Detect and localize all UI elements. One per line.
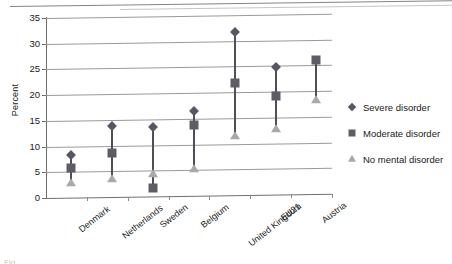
data-point-no-mental-disorder-netherlands: [107, 174, 117, 182]
legend-marker-diamond-icon: [346, 101, 358, 113]
x-tick-mark-6: [332, 194, 333, 198]
data-point-no-mental-disorder-sweden: [148, 169, 158, 177]
y-tick-label-30: 30: [18, 39, 40, 49]
data-point-severe-disorder-eu21: [271, 62, 281, 72]
range-stem-austria: [315, 60, 317, 100]
data-point-no-mental-disorder-eu21: [271, 124, 281, 132]
x-tick-label-denmark: Denmark: [77, 204, 112, 234]
legend-marker-square-icon: [346, 127, 358, 139]
y-tick-label-25: 25: [18, 64, 40, 74]
triangle-icon: [348, 155, 356, 162]
y-tick-mark-0: [42, 198, 46, 199]
legend-label: No mental disorder: [363, 154, 443, 165]
range-stem-sweden: [152, 127, 154, 187]
data-point-no-mental-disorder-denmark: [66, 178, 76, 186]
y-tick-label-15: 15: [18, 116, 40, 126]
data-point-severe-disorder-denmark: [66, 150, 76, 160]
y-tick-label-0: 0: [18, 193, 40, 203]
x-tick-label-austria: Austria: [320, 200, 348, 225]
data-points: [46, 18, 332, 198]
data-point-no-mental-disorder-austria: [311, 95, 321, 103]
legend: Severe disorderModerate disorderNo menta…: [346, 101, 452, 179]
legend-item-moderate-disorder[interactable]: Moderate disorder: [346, 127, 452, 139]
data-point-severe-disorder-sweden: [148, 123, 158, 133]
chart: Percent 05101520253035 DenmarkNetherland…: [0, 0, 452, 264]
data-point-severe-disorder-netherlands: [107, 121, 117, 131]
x-tick-label-eu21: EU21: [278, 201, 302, 223]
data-point-moderate-disorder-belgium: [189, 120, 198, 129]
y-tick-label-10: 10: [18, 142, 40, 152]
data-point-moderate-disorder-sweden: [149, 183, 158, 192]
legend-item-no-mental-disorder[interactable]: No mental disorder: [346, 153, 452, 165]
caption-fragment: Fig: [4, 258, 74, 264]
data-point-moderate-disorder-austria: [312, 55, 321, 64]
plot-area: [46, 18, 332, 198]
square-icon: [349, 130, 356, 137]
legend-marker-triangle-icon: [346, 153, 358, 165]
data-point-no-mental-disorder-belgium: [189, 164, 199, 172]
y-tick-label-5: 5: [18, 167, 40, 177]
data-point-moderate-disorder-eu21: [271, 92, 280, 101]
data-point-moderate-disorder-netherlands: [108, 148, 117, 157]
y-tick-label-35: 35: [18, 13, 40, 23]
x-tick-label-belgium: Belgium: [199, 202, 231, 230]
data-point-severe-disorder-belgium: [189, 106, 199, 116]
data-point-moderate-disorder-denmark: [67, 163, 76, 172]
data-point-moderate-disorder-united-kingdom: [230, 79, 239, 88]
data-point-no-mental-disorder-united-kingdom: [230, 131, 240, 139]
diamond-icon: [348, 103, 356, 111]
legend-label: Severe disorder: [363, 102, 430, 113]
data-point-severe-disorder-united-kingdom: [230, 27, 240, 37]
figure: Percent 05101520253035 DenmarkNetherland…: [0, 0, 452, 264]
y-tick-label-20: 20: [18, 90, 40, 100]
legend-label: Moderate disorder: [363, 128, 440, 139]
legend-item-severe-disorder[interactable]: Severe disorder: [346, 101, 452, 113]
